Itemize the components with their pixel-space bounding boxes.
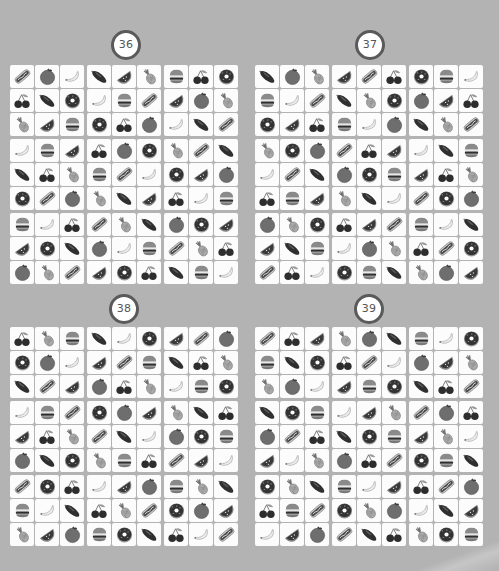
grid-cell[interactable] bbox=[112, 523, 136, 546]
grid-cell[interactable] bbox=[214, 523, 238, 546]
grid-cell[interactable] bbox=[332, 89, 356, 112]
grid-cell[interactable] bbox=[189, 401, 213, 424]
grid-cell[interactable] bbox=[137, 351, 161, 374]
grid-cell[interactable] bbox=[112, 163, 136, 186]
grid-cell[interactable] bbox=[60, 261, 84, 284]
grid-cell[interactable] bbox=[459, 113, 483, 136]
grid-cell[interactable] bbox=[35, 261, 59, 284]
grid-cell[interactable] bbox=[305, 475, 329, 498]
grid-cell[interactable] bbox=[35, 523, 59, 546]
grid-cell[interactable] bbox=[382, 65, 406, 88]
grid-cell[interactable] bbox=[164, 499, 188, 522]
grid-cell[interactable] bbox=[164, 523, 188, 546]
grid-cell[interactable] bbox=[214, 65, 238, 88]
grid-cell[interactable] bbox=[332, 327, 356, 350]
grid-cell[interactable] bbox=[35, 499, 59, 522]
grid-cell[interactable] bbox=[112, 65, 136, 88]
grid-cell[interactable] bbox=[60, 139, 84, 162]
grid-cell[interactable] bbox=[189, 187, 213, 210]
grid-cell[interactable] bbox=[332, 113, 356, 136]
grid-cell[interactable] bbox=[164, 449, 188, 472]
grid-cell[interactable] bbox=[35, 213, 59, 236]
grid-cell[interactable] bbox=[357, 351, 381, 374]
grid-cell[interactable] bbox=[409, 139, 433, 162]
grid-cell[interactable] bbox=[382, 213, 406, 236]
grid-cell[interactable] bbox=[255, 261, 279, 284]
grid-cell[interactable] bbox=[60, 523, 84, 546]
grid-cell[interactable] bbox=[255, 425, 279, 448]
grid-cell[interactable] bbox=[35, 237, 59, 260]
grid-cell[interactable] bbox=[332, 375, 356, 398]
grid-cell[interactable] bbox=[10, 401, 34, 424]
grid-cell[interactable] bbox=[434, 351, 458, 374]
grid-cell[interactable] bbox=[87, 401, 111, 424]
grid-cell[interactable] bbox=[60, 401, 84, 424]
grid-cell[interactable] bbox=[305, 499, 329, 522]
grid-cell[interactable] bbox=[459, 499, 483, 522]
grid-cell[interactable] bbox=[280, 89, 304, 112]
grid-cell[interactable] bbox=[357, 139, 381, 162]
grid-cell[interactable] bbox=[137, 261, 161, 284]
grid-cell[interactable] bbox=[10, 449, 34, 472]
grid-cell[interactable] bbox=[255, 351, 279, 374]
grid-cell[interactable] bbox=[214, 163, 238, 186]
grid-cell[interactable] bbox=[255, 499, 279, 522]
grid-cell[interactable] bbox=[189, 113, 213, 136]
grid-cell[interactable] bbox=[214, 475, 238, 498]
grid-cell[interactable] bbox=[189, 237, 213, 260]
grid-cell[interactable] bbox=[87, 213, 111, 236]
grid-cell[interactable] bbox=[87, 351, 111, 374]
grid-cell[interactable] bbox=[214, 449, 238, 472]
grid-cell[interactable] bbox=[357, 163, 381, 186]
grid-cell[interactable] bbox=[112, 499, 136, 522]
grid-cell[interactable] bbox=[305, 113, 329, 136]
grid-cell[interactable] bbox=[137, 65, 161, 88]
grid-cell[interactable] bbox=[382, 187, 406, 210]
grid-cell[interactable] bbox=[305, 401, 329, 424]
grid-cell[interactable] bbox=[280, 351, 304, 374]
grid-cell[interactable] bbox=[164, 425, 188, 448]
grid-cell[interactable] bbox=[214, 89, 238, 112]
grid-cell[interactable] bbox=[409, 237, 433, 260]
grid-cell[interactable] bbox=[305, 213, 329, 236]
grid-cell[interactable] bbox=[382, 425, 406, 448]
grid-cell[interactable] bbox=[87, 475, 111, 498]
grid-cell[interactable] bbox=[189, 425, 213, 448]
grid-cell[interactable] bbox=[35, 449, 59, 472]
grid-cell[interactable] bbox=[332, 237, 356, 260]
grid-cell[interactable] bbox=[10, 327, 34, 350]
grid-cell[interactable] bbox=[112, 351, 136, 374]
grid-cell[interactable] bbox=[137, 89, 161, 112]
grid-cell[interactable] bbox=[164, 475, 188, 498]
grid-cell[interactable] bbox=[35, 187, 59, 210]
grid-cell[interactable] bbox=[112, 401, 136, 424]
grid-cell[interactable] bbox=[214, 237, 238, 260]
grid-cell[interactable] bbox=[87, 375, 111, 398]
grid-cell[interactable] bbox=[164, 65, 188, 88]
grid-cell[interactable] bbox=[280, 213, 304, 236]
grid-cell[interactable] bbox=[35, 89, 59, 112]
grid-cell[interactable] bbox=[305, 261, 329, 284]
grid-cell[interactable] bbox=[189, 213, 213, 236]
grid-cell[interactable] bbox=[280, 261, 304, 284]
grid-cell[interactable] bbox=[459, 351, 483, 374]
grid-cell[interactable] bbox=[280, 139, 304, 162]
grid-cell[interactable] bbox=[459, 327, 483, 350]
grid-cell[interactable] bbox=[112, 261, 136, 284]
grid-cell[interactable] bbox=[409, 261, 433, 284]
grid-cell[interactable] bbox=[332, 187, 356, 210]
grid-cell[interactable] bbox=[332, 425, 356, 448]
grid-cell[interactable] bbox=[280, 327, 304, 350]
grid-cell[interactable] bbox=[10, 213, 34, 236]
grid-cell[interactable] bbox=[409, 327, 433, 350]
grid-cell[interactable] bbox=[434, 475, 458, 498]
grid-cell[interactable] bbox=[255, 327, 279, 350]
grid-cell[interactable] bbox=[255, 375, 279, 398]
grid-cell[interactable] bbox=[10, 523, 34, 546]
grid-cell[interactable] bbox=[255, 113, 279, 136]
grid-cell[interactable] bbox=[137, 401, 161, 424]
grid-cell[interactable] bbox=[35, 163, 59, 186]
grid-cell[interactable] bbox=[409, 89, 433, 112]
grid-cell[interactable] bbox=[214, 139, 238, 162]
grid-cell[interactable] bbox=[382, 327, 406, 350]
